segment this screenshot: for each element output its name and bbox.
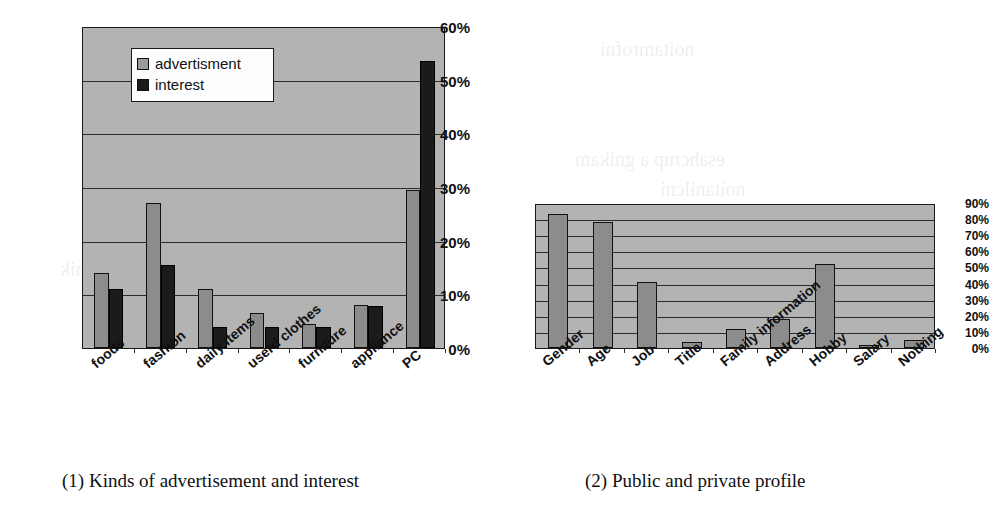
x-axis-tick-mark <box>935 349 936 353</box>
bar-advertisment <box>406 190 421 348</box>
y-axis-tick-label: 20% <box>396 234 470 249</box>
plot-area-chart2 <box>535 204 935 349</box>
x-axis-tick-mark <box>624 349 625 353</box>
figure-container: noitamrofni esahcrup a gnikam noitanilcn… <box>0 0 989 529</box>
y-axis-tick-label: 60% <box>396 20 470 35</box>
y-axis-tick-label: 50% <box>930 262 989 274</box>
x-axis-tick-mark <box>341 349 342 353</box>
x-axis-tick-mark <box>713 349 714 353</box>
x-axis-tick-mark <box>393 349 394 353</box>
legend-swatch-advertisment-icon <box>137 58 149 70</box>
y-axis-tick-label: 40% <box>396 127 470 142</box>
y-axis-tick-label: 30% <box>396 181 470 196</box>
legend-item-interest: interest <box>137 74 265 95</box>
x-axis-tick-mark <box>134 349 135 353</box>
chart-public-and-private-profile: 0%10%20%30%40%50%60%70%80%90% GenderAgeJ… <box>470 0 989 460</box>
y-axis-tick-label: 90% <box>930 198 989 210</box>
x-axis-tick-mark <box>289 349 290 353</box>
legend-swatch-interest-icon <box>137 79 149 91</box>
x-axis-tick-mark <box>757 349 758 353</box>
gridline <box>83 295 444 296</box>
gridline <box>83 134 444 135</box>
bar-advertisment <box>146 203 161 348</box>
bar-share <box>593 222 613 348</box>
y-axis-tick-label: 50% <box>396 73 470 88</box>
x-axis-tick-mark <box>238 349 239 353</box>
x-axis-tick-mark <box>445 349 446 353</box>
bar-advertisment <box>94 273 109 348</box>
y-axis-tick-label: 10% <box>396 288 470 303</box>
caption-panel-2: (2) Public and private profile <box>585 470 806 492</box>
y-axis-tick-label: 20% <box>930 311 989 323</box>
y-axis-tick-label: 70% <box>930 230 989 242</box>
bar-interest <box>420 61 435 348</box>
legend-label-advertisment: advertisment <box>155 55 241 72</box>
x-axis-tick-mark <box>186 349 187 353</box>
legend-chart1: advertisment interest <box>131 48 274 102</box>
x-axis-tick-mark <box>846 349 847 353</box>
x-axis-tick-mark <box>802 349 803 353</box>
gridline <box>83 188 444 189</box>
caption-panel-1: (1) Kinds of advertisement and interest <box>62 470 359 492</box>
y-axis-tick-label: 30% <box>930 295 989 307</box>
y-axis-tick-label: 40% <box>930 279 989 291</box>
y-axis-tick-label: 60% <box>930 246 989 258</box>
chart-advertisement-and-interest: 0%10%20%30%40%50%60% foodsfashiondaily i… <box>0 0 470 460</box>
x-axis-tick-mark <box>891 349 892 353</box>
x-axis-tick-mark <box>668 349 669 353</box>
bar-share <box>637 282 657 348</box>
bar-advertisment <box>198 289 213 348</box>
y-axis-tick-label: 0% <box>930 343 989 355</box>
bar-share <box>548 214 568 348</box>
gridline <box>83 242 444 243</box>
legend-label-interest: interest <box>155 76 204 93</box>
y-axis-tick-label: 80% <box>930 214 989 226</box>
gridline <box>536 220 934 221</box>
legend-item-advertisment: advertisment <box>137 53 265 74</box>
x-axis-tick-mark <box>579 349 580 353</box>
